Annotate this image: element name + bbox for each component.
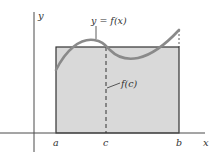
mean-value-diagram: y y = f(x) f(c) a c b x xyxy=(0,0,215,162)
tick-label-b: b xyxy=(176,137,182,148)
tick-label-c: c xyxy=(103,137,109,148)
x-axis-label: x xyxy=(203,137,209,148)
shaded-rectangle xyxy=(56,47,179,133)
y-axis-label: y xyxy=(37,10,44,21)
fc-label: f(c) xyxy=(120,78,138,89)
tick-label-a: a xyxy=(53,137,59,148)
curve-label: y = f(x) xyxy=(90,15,127,26)
